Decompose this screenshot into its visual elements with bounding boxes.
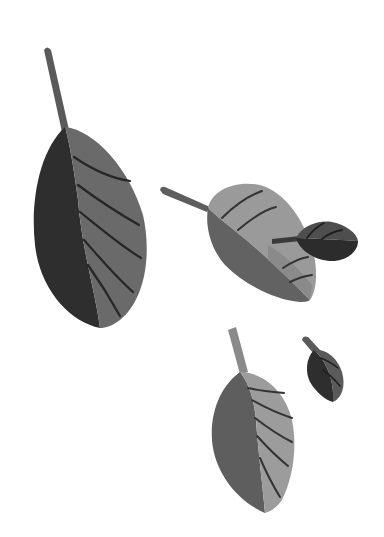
medium-leaf-center bbox=[160, 184, 316, 302]
medium-leaf-bottom bbox=[212, 327, 295, 513]
large-leaf-stem bbox=[44, 48, 69, 133]
small-leaf-upper bbox=[296, 222, 358, 241]
bottom-leaf-stem bbox=[228, 327, 248, 374]
medium-leaf-stem bbox=[160, 187, 210, 212]
tiny-leaf-bottom-right bbox=[302, 336, 344, 402]
large-leaf-left bbox=[34, 48, 147, 329]
leaves-svg bbox=[0, 0, 384, 537]
leaves-illustration: Falling leaves bbox=[0, 0, 384, 537]
